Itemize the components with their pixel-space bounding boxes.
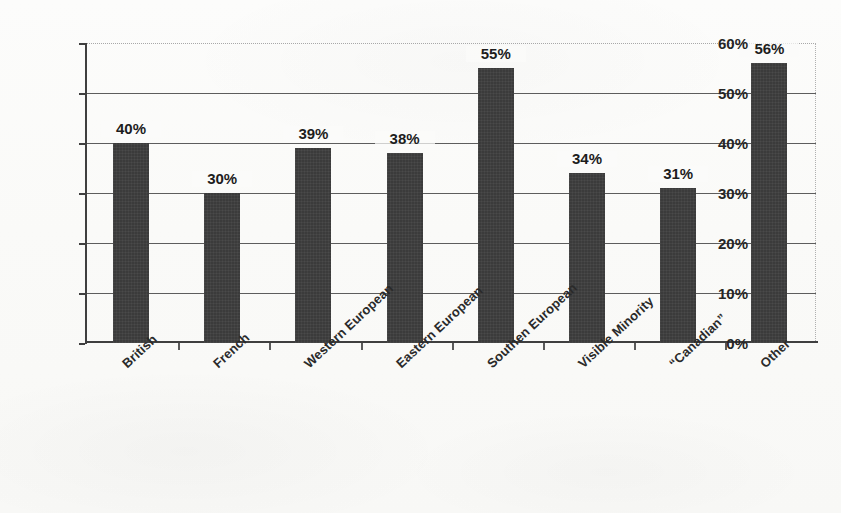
x-axis-category-labels: BritishFrenchWestern EuropeanEastern Eur… [0, 358, 841, 513]
x-tick-5 [543, 343, 545, 350]
y-tick-label-20: 20% [688, 235, 748, 252]
y-tick-30 [79, 193, 85, 195]
y-tick-label-60: 60% [688, 35, 748, 52]
bar-value-label-5: 34% [557, 151, 617, 167]
y-tick-60 [79, 43, 85, 45]
bar-value-label-0: 40% [101, 121, 161, 137]
bar-2[interactable] [295, 148, 331, 343]
y-tick-label-30: 30% [688, 185, 748, 202]
bar-4[interactable] [478, 68, 514, 343]
x-tick-2 [269, 343, 271, 350]
x-tick-1 [178, 343, 180, 350]
bar-0[interactable] [113, 143, 149, 343]
bar-1[interactable] [204, 193, 240, 343]
y-tick-20 [79, 243, 85, 245]
bar-value-label-1: 30% [192, 171, 252, 187]
y-axis-line [85, 43, 87, 344]
y-tick-40 [79, 143, 85, 145]
y-tick-0 [79, 343, 85, 345]
x-tick-6 [634, 343, 636, 350]
y-tick-label-50: 50% [688, 85, 748, 102]
bar-5[interactable] [569, 173, 605, 343]
bar-6[interactable] [660, 188, 696, 343]
chart-page: 60% 50% 40% 30% 20% 10% 0% 40%30%39%38%5… [0, 0, 841, 513]
bar-3[interactable] [387, 153, 423, 343]
y-tick-50 [79, 93, 85, 95]
bar-value-label-4: 55% [466, 46, 526, 62]
bar-value-label-6: 31% [648, 166, 708, 182]
y-tick-label-10: 10% [688, 285, 748, 302]
chart-title [0, 0, 841, 3]
bar-value-label-2: 39% [283, 126, 343, 142]
x-tick-3 [361, 343, 363, 350]
bar-value-label-7: 56% [739, 41, 799, 57]
x-tick-4 [452, 343, 454, 350]
y-tick-10 [79, 293, 85, 295]
bar-7[interactable] [751, 63, 787, 343]
y-tick-label-40: 40% [688, 135, 748, 152]
bar-value-label-3: 38% [375, 131, 435, 147]
